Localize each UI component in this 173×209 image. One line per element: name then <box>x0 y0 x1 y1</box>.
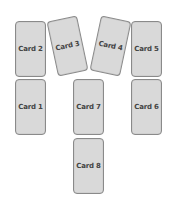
card-5[interactable]: Card 5 <box>131 21 162 77</box>
card-6[interactable]: Card 6 <box>131 79 162 135</box>
card-3[interactable]: Card 3 <box>47 15 89 76</box>
card-label: Card 7 <box>76 103 100 111</box>
card-4[interactable]: Card 4 <box>90 15 132 76</box>
card-label: Card 4 <box>98 40 124 53</box>
card-8[interactable]: Card 8 <box>73 138 104 194</box>
card-label: Card 1 <box>18 103 42 111</box>
card-label: Card 8 <box>76 162 100 170</box>
card-7[interactable]: Card 7 <box>73 79 104 135</box>
card-label: Card 3 <box>55 40 81 53</box>
card-label: Card 2 <box>18 45 42 53</box>
card-1[interactable]: Card 1 <box>15 79 46 135</box>
card-label: Card 6 <box>134 103 158 111</box>
card-2[interactable]: Card 2 <box>15 21 46 77</box>
card-label: Card 5 <box>134 45 158 53</box>
